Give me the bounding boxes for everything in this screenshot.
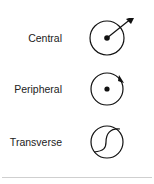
- circle-dot-outward-arrow-icon: [86, 18, 146, 60]
- row-peripheral: Peripheral: [0, 71, 154, 111]
- divider: [2, 177, 152, 178]
- row-transverse: Transverse: [0, 124, 154, 164]
- circle-s-curve-icon: [86, 124, 146, 164]
- label-central: Central: [28, 32, 62, 44]
- label-peripheral: Peripheral: [14, 83, 62, 95]
- row-central: Central: [0, 18, 154, 58]
- circle-dot-rotation-arrow-icon: [86, 71, 146, 111]
- label-transverse: Transverse: [10, 136, 62, 148]
